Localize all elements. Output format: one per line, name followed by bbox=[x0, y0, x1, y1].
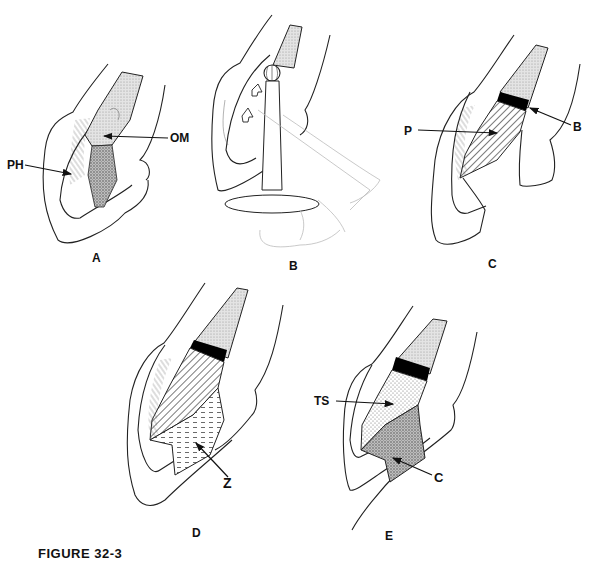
panel-b: B bbox=[212, 15, 380, 273]
obturating-material-a bbox=[85, 72, 143, 146]
label-p: P bbox=[404, 124, 412, 138]
b-arrow bbox=[530, 108, 571, 125]
root-wall-b bbox=[300, 35, 330, 135]
instrument-shaft bbox=[262, 81, 282, 190]
panel-d: Z D bbox=[127, 283, 283, 540]
root-canal-b bbox=[273, 25, 302, 68]
label-c: C bbox=[434, 470, 444, 485]
panel-label-e: E bbox=[385, 529, 393, 543]
ph-arrow bbox=[25, 165, 71, 174]
panel-a: OM PH A bbox=[7, 64, 189, 265]
panel-e: TS C E bbox=[314, 306, 477, 543]
panel-label-a: A bbox=[92, 251, 101, 265]
root-wall-a bbox=[140, 85, 165, 180]
panel-label-c: C bbox=[488, 257, 497, 271]
panel-label-d: D bbox=[192, 526, 201, 540]
force-arrow-icon-1 bbox=[252, 84, 262, 96]
label-ts: TS bbox=[314, 394, 329, 408]
label-om: OM bbox=[170, 131, 189, 145]
periodontal-fibers-a bbox=[69, 118, 90, 185]
label-z: Z bbox=[223, 475, 232, 491]
panel-c: P B C bbox=[404, 35, 582, 271]
label-ph: PH bbox=[7, 158, 24, 172]
force-arrow-icon-2 bbox=[242, 108, 253, 122]
instrument-base bbox=[225, 195, 319, 213]
label-b: B bbox=[573, 120, 582, 134]
figure-caption: FIGURE 32-3 bbox=[38, 546, 122, 561]
panel-label-b: B bbox=[289, 259, 298, 273]
